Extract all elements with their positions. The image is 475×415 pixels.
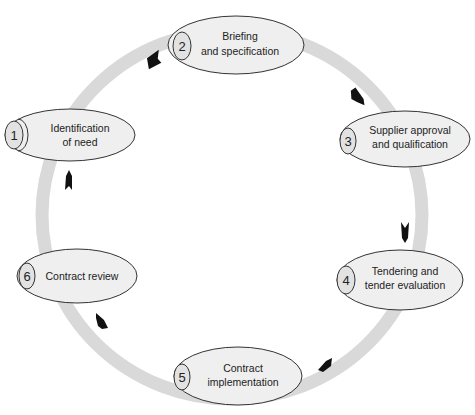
node-number: 5 [178, 370, 185, 385]
node-supplier-approval-and-qualification: 3 Supplier approval and qualification [340, 111, 470, 167]
cycle-ring [42, 31, 422, 399]
arrow-icon [401, 222, 409, 243]
node-number: 6 [23, 269, 30, 284]
node-label-line-2: and qualification [372, 138, 448, 150]
node-briefing-and-specification: 2 Briefing and specification [168, 16, 304, 74]
node-number: 2 [178, 39, 185, 54]
node-label-line-1: Tendering and [372, 265, 439, 277]
node-number: 3 [344, 134, 351, 149]
node-label-line-1: Contract [223, 362, 263, 374]
node-identification-of-need: 1 Identification of need [5, 109, 135, 161]
node-label-line-1: Briefing [222, 30, 258, 42]
node-number: 4 [342, 273, 349, 288]
node-label-line-2: tender evaluation [365, 279, 446, 291]
node-contract-review: 6 Contract review [17, 249, 137, 303]
node-label-line-1: Supplier approval [369, 124, 451, 136]
arrow-icon [96, 313, 108, 329]
arrow-icon [65, 170, 72, 190]
node-contract-implementation: 5 Contract implementation [174, 347, 302, 405]
node-number: 1 [10, 128, 17, 143]
node-tendering-and-tender-evaluation: 4 Tendering and tender evaluation [337, 250, 463, 310]
node-label-line-2: of need [62, 136, 97, 148]
procurement-cycle-diagram: 1 Identification of need 2 Briefing and … [0, 0, 475, 415]
node-label-line-2: and specification [201, 45, 279, 57]
node-label-line-1: Contract review [46, 270, 119, 282]
node-label-line-2: implementation [207, 376, 278, 388]
node-label-line-1: Identification [51, 122, 110, 134]
